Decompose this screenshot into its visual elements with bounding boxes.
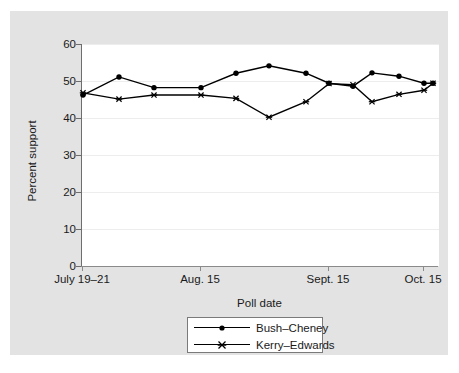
plot-area <box>81 44 439 266</box>
x-tick-mark-3 <box>423 266 424 271</box>
y-tick-label-40: 40 <box>63 112 76 124</box>
data-point-marker <box>198 85 203 90</box>
x-axis-title: Poll date <box>81 297 438 309</box>
series-kerry-edwards <box>80 81 436 120</box>
data-point-marker <box>421 88 427 93</box>
data-point-marker <box>396 92 402 97</box>
x-tick-mark-2 <box>328 266 329 271</box>
x-tick-mark-1 <box>200 266 201 271</box>
legend-item-bush-cheney[interactable]: Bush–Cheney <box>188 319 322 336</box>
x-tick-label-1: Aug. 15 <box>180 273 220 285</box>
legend-label-kerry-edwards: Kerry–Edwards <box>256 339 335 351</box>
y-tick-label-10: 10 <box>63 223 76 235</box>
figure-background-panel: 6050403020100 Percent support July 19–21… <box>10 11 448 355</box>
data-point-marker <box>198 92 204 97</box>
data-point-marker <box>396 73 401 78</box>
data-point-marker <box>369 70 374 75</box>
x-tick-label-0: July 19–21 <box>54 273 110 285</box>
data-point-marker <box>116 97 122 102</box>
data-point-marker <box>266 63 271 68</box>
data-point-marker <box>421 81 426 86</box>
chart-figure: 6050403020100 Percent support July 19–21… <box>0 0 459 373</box>
chart-legend: Bush–Cheney Kerry–Edwards <box>187 317 323 353</box>
legend-label-bush-cheney: Bush–Cheney <box>256 322 328 334</box>
data-point-marker <box>116 74 121 79</box>
legend-item-kerry-edwards[interactable]: Kerry–Edwards <box>188 336 322 353</box>
series-layer <box>82 44 439 266</box>
legend-key-x-cross-icon <box>194 337 250 353</box>
x-tick-label-2: Sept. 15 <box>307 273 350 285</box>
data-point-marker <box>233 96 239 101</box>
y-tick-label-20: 20 <box>63 186 76 198</box>
y-tick-label-50: 50 <box>63 75 76 87</box>
series-line <box>83 66 433 95</box>
y-tick-label-30: 30 <box>63 149 76 161</box>
data-point-marker <box>303 99 309 104</box>
x-axis-line <box>81 266 438 267</box>
data-point-marker <box>303 71 308 76</box>
data-point-marker <box>266 115 272 120</box>
series-bush-cheney <box>80 63 435 98</box>
series-line <box>83 83 433 117</box>
data-point-marker <box>233 71 238 76</box>
x-tick-mark-0 <box>82 266 83 271</box>
y-tick-label-60: 60 <box>63 38 76 50</box>
y-axis-tick-labels: 6050403020100 <box>40 11 76 373</box>
legend-key-filled-circle-icon <box>194 320 250 336</box>
y-axis-title: Percent support <box>26 71 38 251</box>
data-point-marker <box>369 99 375 104</box>
data-point-marker <box>151 92 157 97</box>
x-tick-label-3: Oct. 15 <box>404 273 441 285</box>
data-point-marker <box>151 85 156 90</box>
